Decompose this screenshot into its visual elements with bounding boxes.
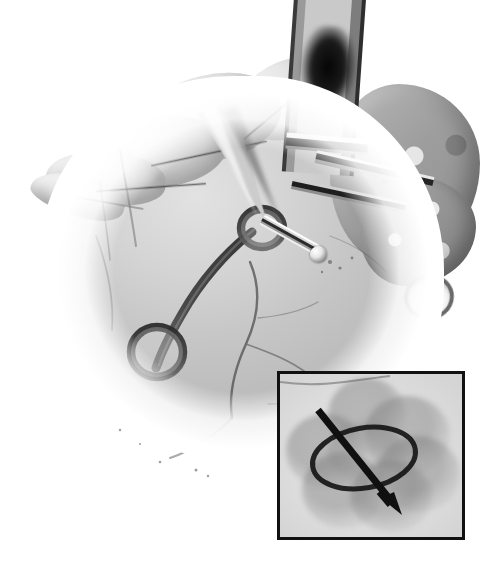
figure-root: Grayscale surgical photograph of a soft … bbox=[0, 0, 500, 561]
inset-overlay bbox=[280, 374, 465, 540]
inset-ring bbox=[308, 419, 421, 496]
inset-crack bbox=[280, 376, 390, 384]
probe-tip-bulb bbox=[310, 246, 327, 263]
magnified-detail-inset bbox=[277, 371, 465, 540]
